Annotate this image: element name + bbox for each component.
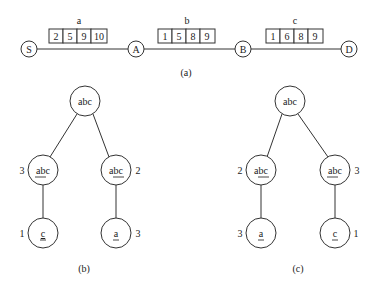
node-label: c <box>41 228 46 239</box>
edge-root-left <box>50 114 77 157</box>
caption-a: (a) <box>180 67 191 79</box>
edge-b-label: b <box>185 15 190 26</box>
node-s: S <box>21 41 37 57</box>
caption-c: (c) <box>292 263 303 275</box>
node-weight: 3 <box>136 228 141 239</box>
edge-root-right <box>93 114 109 157</box>
node-weight: 2 <box>238 165 243 176</box>
node-label: a <box>259 228 264 239</box>
tree-c-right-child: c 1 <box>320 218 359 248</box>
node-weight: 3 <box>355 165 360 176</box>
underlined-part: ab <box>328 165 337 176</box>
root-label: abc <box>78 96 92 107</box>
panel-b: abc abc 3 abc 2 c 1 a 3 (b) <box>20 86 141 275</box>
array-cell: 9 <box>82 31 87 42</box>
node-a-label: A <box>132 44 140 55</box>
node-b-label: B <box>240 44 247 55</box>
edge-c-label: c <box>293 15 298 26</box>
node-weight: 1 <box>354 228 359 239</box>
array-cell: 1 <box>163 31 168 42</box>
panel-c: abc abc 2 abc 3 a 3 c 1 (c) <box>238 86 360 275</box>
tree-b-right-child: a 3 <box>101 218 141 248</box>
array-cell: 2 <box>54 31 59 42</box>
array-cell: 5 <box>177 31 182 42</box>
edge-c-array: c 1 6 8 9 <box>266 15 323 43</box>
tree-c-right: abc 3 <box>320 155 360 185</box>
edge-root-right <box>298 114 328 157</box>
edge-b-array: b 1 5 8 9 <box>158 15 215 43</box>
node-label: abc <box>254 165 268 176</box>
array-cell: 1 <box>271 31 276 42</box>
node-label: abc <box>109 165 123 176</box>
array-cell: 6 <box>285 31 290 42</box>
node-label: c <box>333 228 338 239</box>
node-weight: 3 <box>238 228 243 239</box>
node-weight: 3 <box>20 165 25 176</box>
node-a: A <box>128 41 144 57</box>
node-d-label: D <box>345 44 352 55</box>
tree-c-left: abc 2 <box>238 155 277 185</box>
tree-b-left-child: c 1 <box>20 218 59 248</box>
node-weight: 2 <box>136 165 141 176</box>
array-cell: 5 <box>68 31 73 42</box>
underlined-part: ab <box>36 165 45 176</box>
array-cell: 8 <box>299 31 304 42</box>
array-cell: 9 <box>313 31 318 42</box>
underlined-part: bc <box>259 165 269 176</box>
tree-c-left-child: a 3 <box>238 218 277 248</box>
root-label: abc <box>283 96 297 107</box>
plain-part: c <box>338 165 343 176</box>
array-cell: 10 <box>94 31 104 42</box>
node-label: a <box>114 228 119 239</box>
array-cell: 8 <box>191 31 196 42</box>
diagram-canvas: S A B D a 2 5 9 10 b <box>0 0 377 287</box>
caption-b: (b) <box>78 263 90 275</box>
edge-a-array: a 2 5 9 10 <box>49 15 107 43</box>
array-cell: 9 <box>205 31 210 42</box>
node-label: abc <box>36 165 50 176</box>
tree-b-left: abc 3 <box>20 155 59 185</box>
node-d: D <box>341 41 357 57</box>
panel-a: S A B D a 2 5 9 10 b <box>21 15 357 79</box>
tree-b-root: abc <box>70 86 100 116</box>
node-b: B <box>235 41 251 57</box>
node-weight: 1 <box>20 228 25 239</box>
edge-root-left <box>267 114 282 157</box>
edge-a-label: a <box>77 15 82 26</box>
underlined-part: bc <box>114 165 124 176</box>
tree-b-right: abc 2 <box>101 155 141 185</box>
node-s-label: S <box>26 44 32 55</box>
node-label: abc <box>328 165 342 176</box>
tree-c-root: abc <box>275 86 305 116</box>
plain-part: c <box>46 165 51 176</box>
